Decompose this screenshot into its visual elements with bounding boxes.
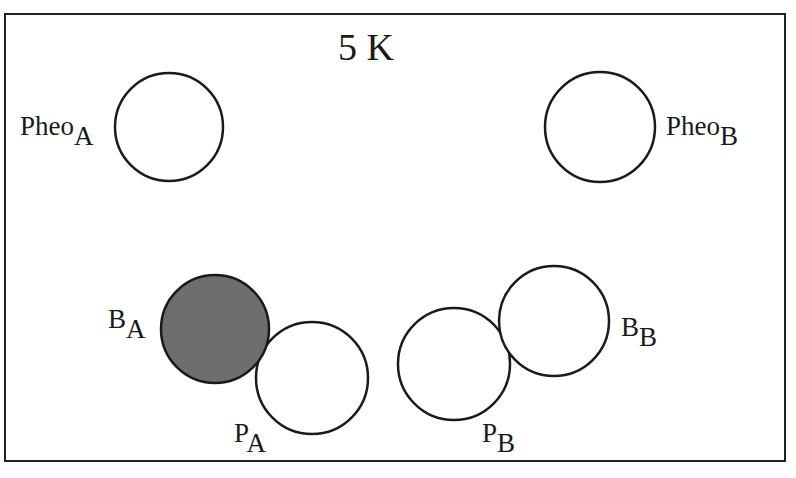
label-pheo-b: PheoB [666,113,738,140]
label-b-b: BB [621,314,657,341]
p-a-circle [256,322,368,434]
label-p-b: PB [482,420,515,447]
pheo-b-circle [545,72,655,182]
label-subscript: B [497,428,515,458]
label-p-a: PA [234,420,266,447]
label-subscript: A [126,314,146,344]
label-subscript: A [74,121,94,151]
label-subscript: B [720,121,738,151]
label-base: P [234,418,247,448]
label-b-a: BA [108,306,146,333]
label-base: B [621,312,639,342]
b-b-circle [499,266,609,376]
label-subscript: A [247,428,267,458]
label-subscript: B [639,322,657,352]
pheo-a-circle [115,73,223,181]
label-base: Pheo [666,111,720,141]
label-base: Pheo [20,111,74,141]
pigment-diagram [0,0,796,478]
b-a-circle-filled [161,275,269,383]
label-pheo-a: PheoA [20,113,94,140]
label-base: B [108,304,126,334]
label-base: P [482,418,497,448]
p-b-circle [398,308,510,420]
